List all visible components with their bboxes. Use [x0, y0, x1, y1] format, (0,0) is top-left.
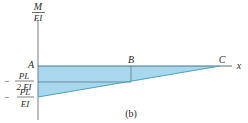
x-axis-label: x	[236, 60, 242, 71]
point-a-label: A	[27, 59, 35, 70]
tick-2-numerator: PL	[19, 87, 31, 97]
tick-1-numerator: PL	[18, 71, 30, 81]
figure-caption: (b)	[125, 108, 137, 120]
tick-2-sign: −	[4, 92, 9, 102]
y-axis-label-numerator: M	[33, 1, 43, 12]
y-axis-label-denominator: EI	[33, 13, 43, 23]
point-b-label: B	[128, 54, 134, 65]
point-c-label: C	[219, 54, 226, 65]
tick-1-sign: −	[4, 76, 9, 86]
tick-2-denominator: EI	[20, 99, 30, 109]
mei-diagram: M EI A B C x − PL 2 EI − PL EI (b)	[0, 0, 248, 123]
